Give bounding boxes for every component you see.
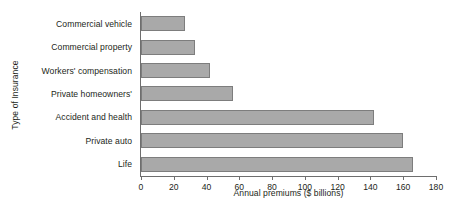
- bar: [141, 110, 374, 125]
- x-axis-tick: [370, 176, 371, 180]
- x-axis-ticks: [141, 176, 436, 181]
- x-axis-tick: [239, 176, 240, 180]
- x-axis-tick: [403, 176, 404, 180]
- bar-row: [141, 153, 436, 176]
- category-label: Private homeowners': [18, 82, 136, 105]
- bar-row: [141, 35, 436, 58]
- bar: [141, 16, 185, 31]
- bar: [141, 86, 233, 101]
- bar-row: [141, 106, 436, 129]
- x-axis-tick: [436, 176, 437, 180]
- x-axis-tick: [141, 176, 142, 180]
- category-label: Private auto: [18, 129, 136, 152]
- x-axis-tick: [174, 176, 175, 180]
- bar: [141, 133, 403, 148]
- bar-series: [141, 12, 436, 176]
- bar-row: [141, 129, 436, 152]
- x-axis-title: Annual premiums ($ billions): [141, 188, 436, 198]
- bar-row: [141, 82, 436, 105]
- plot-area: 020406080100120140160180: [141, 12, 436, 176]
- category-label-list: Commercial vehicle Commercial property W…: [18, 12, 136, 176]
- category-label: Workers' compensation: [18, 59, 136, 82]
- category-label: Accident and health: [18, 106, 136, 129]
- bar: [141, 157, 413, 172]
- x-axis-tick: [207, 176, 208, 180]
- category-label: Commercial vehicle: [18, 12, 136, 35]
- bar-chart-figure: Type of Insurance Commercial vehicle Com…: [0, 0, 463, 216]
- category-label: Commercial property: [18, 35, 136, 58]
- bar: [141, 63, 210, 78]
- bar: [141, 40, 195, 55]
- category-label: Life: [18, 153, 136, 176]
- x-axis-tick: [305, 176, 306, 180]
- bar-row: [141, 12, 436, 35]
- x-axis-tick: [272, 176, 273, 180]
- bar-row: [141, 59, 436, 82]
- x-axis-tick: [338, 176, 339, 180]
